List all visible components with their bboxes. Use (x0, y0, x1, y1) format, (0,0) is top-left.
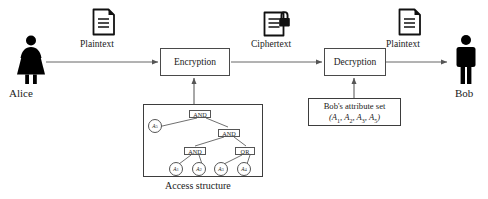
encryption-box[interactable]: Encryption (160, 48, 230, 76)
tree-node-and-2[interactable]: AND (218, 129, 240, 137)
bob-figure (452, 34, 480, 84)
ciphertext-icon (263, 7, 293, 37)
plaintext-in-icon (92, 8, 116, 36)
attribute-set-values: (A1, A2, A3, A5) (329, 112, 380, 124)
plaintext-out-icon (398, 8, 422, 36)
tree-leaf-a1[interactable]: A1 (169, 162, 183, 176)
ciphertext-label: Ciphertext (251, 40, 291, 50)
tree-node-a5[interactable]: A5 (148, 119, 162, 133)
female-person-icon (14, 34, 48, 84)
document-icon (398, 8, 422, 36)
tree-leaf-a4[interactable]: A4 (237, 162, 251, 176)
bob-label: Bob (455, 88, 473, 99)
plaintext-in-label: Plaintext (80, 40, 114, 50)
alice-label: Alice (9, 88, 33, 99)
tree-node-and-3[interactable]: AND (184, 147, 206, 155)
bob-attribute-set-box[interactable]: Bob's attribute set (A1, A2, A3, A5) (308, 98, 401, 126)
document-icon (92, 8, 116, 36)
alice-figure (14, 34, 48, 84)
male-person-icon (452, 34, 480, 84)
decryption-label: Decryption (334, 57, 377, 67)
tree-leaf-a3[interactable]: A3 (214, 162, 228, 176)
access-structure-frame[interactable]: AND A5 AND AND OR A1 A2 A3 A4 (143, 104, 263, 177)
document-lock-icon (263, 7, 293, 37)
diagram-canvas: Alice Plaintext Encryption Ciphertext De… (0, 0, 488, 199)
plaintext-out-label: Plaintext (386, 40, 420, 50)
tree-leaf-a2[interactable]: A2 (192, 162, 206, 176)
access-structure-caption: Access structure (165, 181, 231, 191)
tree-node-or-1[interactable]: OR (235, 147, 255, 155)
attribute-set-title: Bob's attribute set (324, 101, 386, 111)
tree-node-root-and[interactable]: AND (189, 110, 211, 118)
encryption-label: Encryption (174, 57, 216, 67)
decryption-box[interactable]: Decryption (324, 48, 386, 76)
